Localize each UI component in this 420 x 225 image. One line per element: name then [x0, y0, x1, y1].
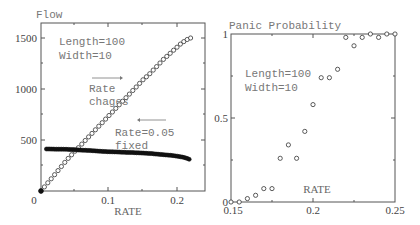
- data-point: [114, 106, 118, 110]
- data-point: [187, 157, 191, 161]
- data-point: [42, 185, 46, 189]
- data-point: [286, 143, 290, 147]
- left-origin-label: 0: [31, 194, 37, 206]
- data-point: [165, 54, 169, 58]
- data-point: [336, 67, 340, 71]
- figure: Flow 1500 1000 500 0 0.1 0.2 RATE Lengt: [0, 0, 420, 225]
- data-point: [90, 131, 94, 135]
- left-ytick-1500: 1500: [15, 32, 38, 44]
- data-point: [245, 197, 249, 201]
- data-point: [56, 169, 60, 173]
- right-xtick-0.15: 0.15: [223, 204, 243, 216]
- data-point: [168, 51, 172, 55]
- left-xtick-0.1: 0.1: [101, 194, 115, 206]
- data-point: [66, 156, 70, 160]
- data-point: [237, 200, 241, 204]
- data-point: [148, 72, 152, 76]
- left-ytick-500: 500: [21, 134, 38, 146]
- data-point: [360, 35, 364, 39]
- left-y-axis-label: Flow: [36, 9, 63, 21]
- left-x-axis-label: RATE: [114, 205, 142, 217]
- right-ytick-1: 1: [223, 28, 229, 40]
- data-point: [270, 187, 274, 191]
- data-point: [175, 45, 179, 49]
- data-point: [377, 35, 381, 39]
- data-point: [97, 124, 101, 128]
- series-panic-probability: [229, 32, 397, 204]
- left-annotation-rate-fixed: Rate=0.05: [115, 127, 174, 139]
- data-point: [319, 76, 323, 80]
- data-point: [138, 81, 142, 85]
- data-point: [93, 128, 97, 132]
- right-x-axis-label: RATE: [303, 183, 331, 195]
- data-point: [39, 189, 44, 194]
- data-point: [80, 142, 84, 146]
- data-point: [229, 200, 233, 204]
- data-point: [107, 113, 111, 117]
- data-point: [327, 76, 331, 80]
- data-point: [100, 121, 104, 125]
- data-point: [59, 164, 63, 168]
- left-annotation-length: Length=100: [59, 36, 125, 48]
- data-point: [385, 32, 389, 36]
- left-arrowhead-icon: [137, 118, 140, 122]
- data-point: [110, 110, 114, 114]
- right-xtick-0.25: 0.25: [385, 204, 405, 216]
- data-point: [393, 32, 397, 36]
- right-ytick-0.5: 0.5: [214, 112, 228, 124]
- data-point: [117, 103, 121, 107]
- data-point: [352, 44, 356, 48]
- data-point: [124, 96, 128, 100]
- data-point: [344, 35, 348, 39]
- series-rate-fixed: [39, 147, 192, 193]
- data-point: [104, 117, 108, 121]
- data-point: [63, 160, 67, 164]
- data-point: [83, 138, 87, 142]
- data-point: [254, 193, 258, 197]
- left-ytick-1000: 1000: [15, 83, 38, 95]
- data-point: [311, 103, 315, 107]
- panic-probability-chart: Panic Probability 1 0.5 0 0.15 0.2 0.25 …: [214, 20, 405, 216]
- right-arrowhead-icon: [120, 76, 123, 80]
- right-annotation-width: Width=10: [245, 82, 298, 94]
- data-point: [46, 181, 50, 185]
- right-y-axis-label: Panic Probability: [229, 20, 342, 32]
- data-point: [70, 153, 74, 157]
- left-annotation-rate: Rate: [89, 83, 115, 95]
- data-point: [131, 88, 135, 92]
- flow-chart: Flow 1500 1000 500 0 0.1 0.2 RATE Lengt: [15, 9, 205, 217]
- right-x-ticks: [272, 34, 354, 202]
- right-xtick-0.2: 0.2: [306, 204, 320, 216]
- data-point: [121, 99, 125, 103]
- data-point: [262, 187, 266, 191]
- data-point: [144, 75, 148, 79]
- left-annotation-width: Width=10: [59, 50, 112, 62]
- data-point: [134, 85, 138, 89]
- data-point: [368, 32, 372, 36]
- data-point: [295, 156, 299, 160]
- left-xtick-0.2: 0.2: [170, 194, 184, 206]
- data-point: [303, 129, 307, 133]
- right-plot-frame: [231, 34, 395, 202]
- data-point: [53, 173, 57, 177]
- data-point: [127, 92, 131, 96]
- right-annotation-length: Length=100: [245, 68, 311, 80]
- data-point: [87, 135, 91, 139]
- data-point: [155, 65, 159, 69]
- data-point: [49, 177, 53, 181]
- data-point: [151, 68, 155, 72]
- data-point: [278, 156, 282, 160]
- data-point: [158, 61, 162, 65]
- data-point: [189, 36, 193, 40]
